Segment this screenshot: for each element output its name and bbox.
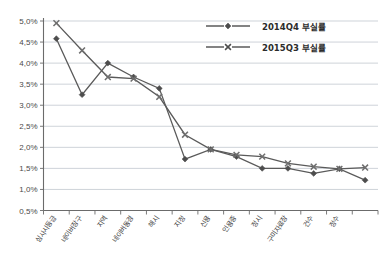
y-axis-tick-label: 5,0% bbox=[19, 17, 37, 26]
legend-label: 2014Q4 부실률 bbox=[262, 22, 326, 32]
legend-label: 2015Q3 부실률 bbox=[262, 43, 326, 53]
y-axis-tick-label: 2,0% bbox=[19, 143, 37, 152]
y-axis-tick-label: 3,0% bbox=[19, 101, 37, 110]
y-axis-tick-label: 3,5% bbox=[19, 80, 37, 89]
y-axis-tick-label: 1,5% bbox=[19, 164, 37, 173]
y-axis-tick-label: 4,0% bbox=[19, 59, 37, 68]
y-axis-tick-label: 1,0% bbox=[19, 185, 37, 194]
chart-container: 5,0%4,5%4,0%3,5%3,0%2,5%2,0%1,5%1,0%0,5%… bbox=[0, 0, 388, 261]
line-chart: 5,0%4,5%4,0%3,5%3,0%2,5%2,0%1,5%1,0%0,5%… bbox=[0, 0, 388, 261]
y-axis-tick-label: 2,5% bbox=[19, 122, 37, 131]
y-axis-tick-label: 4,5% bbox=[19, 38, 37, 47]
y-axis-tick-label: 0,5% bbox=[19, 207, 37, 216]
